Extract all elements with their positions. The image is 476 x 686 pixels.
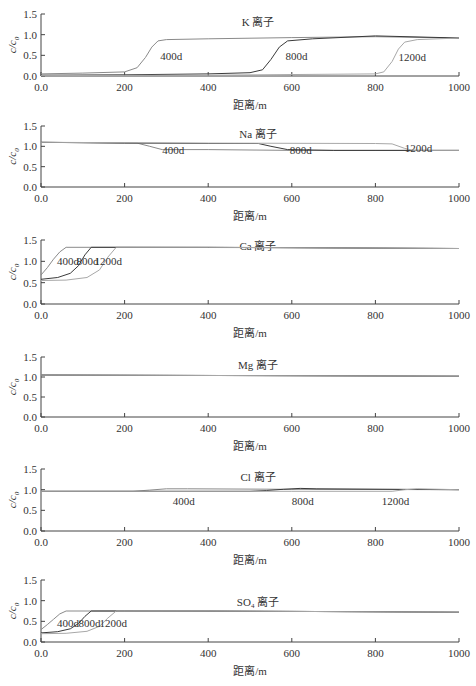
x-axis-label: 距离/m	[233, 439, 267, 452]
y-tick-label: 1.5	[23, 351, 37, 363]
x-tick-label: 1000	[448, 81, 471, 93]
x-tick-label: 0.0	[34, 647, 48, 659]
y-tick-label: 1.0	[23, 255, 37, 267]
y-tick-label: 1.0	[23, 484, 37, 496]
chart-panel-1: 0.00.51.01.50.02004006008001000c/c0距离/mK…	[6, 8, 471, 111]
y-tick-label: 1.0	[23, 140, 37, 152]
chart-title: Mg 离子	[238, 358, 278, 371]
chart-panel-3: 0.00.51.01.50.02004006008001000c/c0距离/mC…	[6, 234, 471, 339]
figure: 0.00.51.01.50.02004006008001000c/c0距离/mK…	[0, 0, 476, 686]
x-tick-label: 400	[200, 422, 217, 434]
x-tick-label: 200	[116, 309, 133, 321]
x-axis-label: 距离/m	[233, 664, 267, 677]
x-tick-label: 1000	[448, 536, 471, 548]
x-tick-label: 800	[367, 81, 384, 93]
x-tick-label: 200	[116, 192, 133, 204]
curve-label-800d: 800d	[286, 50, 309, 62]
y-tick-label: 1.5	[23, 234, 37, 246]
chart-title: Cl 离子	[240, 470, 275, 483]
x-tick-label: 200	[116, 647, 133, 659]
x-tick-label: 800	[367, 536, 384, 548]
series-800d	[41, 36, 459, 75]
chart-title: K 离子	[242, 15, 275, 28]
curve-label-1200d: 1200d	[382, 495, 410, 507]
x-tick-label: 400	[200, 536, 217, 548]
x-axis-label: 距离/m	[233, 553, 267, 566]
curve-label-400d: 400d	[160, 50, 183, 62]
y-axis-label: c/c0	[6, 602, 21, 619]
y-tick-label: 1.5	[23, 463, 37, 475]
x-axis-label: 距离/m	[233, 209, 267, 222]
x-tick-label: 600	[284, 422, 301, 434]
series-1200d	[41, 38, 459, 76]
x-tick-label: 0.0	[34, 192, 48, 204]
x-tick-label: 600	[284, 81, 301, 93]
curve-label-1200d: 1200d	[405, 142, 433, 154]
curve-label-1200d: 1200d	[100, 617, 128, 629]
y-tick-label: 1.0	[23, 595, 37, 607]
y-axis-label: c/c0	[6, 148, 21, 165]
y-tick-label: 1.5	[23, 574, 37, 586]
series-1200d	[41, 375, 459, 376]
x-tick-label: 1000	[448, 309, 471, 321]
curve-label-800d: 800d	[290, 144, 313, 156]
y-tick-label: 0.5	[23, 615, 37, 627]
x-tick-label: 200	[116, 536, 133, 548]
y-tick-label: 1.0	[23, 371, 37, 383]
series-400d	[41, 37, 459, 74]
y-tick-label: 0.5	[23, 161, 37, 173]
x-axis-label: 距离/m	[233, 98, 267, 111]
curve-label-1200d: 1200d	[398, 51, 426, 63]
y-axis-label: c/c0	[6, 491, 21, 508]
x-tick-label: 800	[367, 192, 384, 204]
x-tick-label: 1000	[448, 422, 471, 434]
x-tick-label: 600	[284, 309, 301, 321]
curve-label-400d: 400d	[173, 495, 196, 507]
x-tick-label: 1000	[448, 647, 471, 659]
x-tick-label: 400	[200, 192, 217, 204]
y-tick-label: 0.5	[23, 49, 37, 61]
curve-label-400d: 400d	[57, 617, 80, 629]
x-tick-label: 200	[116, 422, 133, 434]
y-tick-label: 0.5	[23, 277, 37, 289]
x-tick-label: 0.0	[34, 81, 48, 93]
charts-canvas: 0.00.51.01.50.02004006008001000c/c0距离/mK…	[0, 0, 476, 686]
x-tick-label: 800	[367, 309, 384, 321]
x-tick-label: 800	[367, 422, 384, 434]
curve-label-1200d: 1200d	[95, 255, 123, 267]
x-tick-label: 0.0	[34, 309, 48, 321]
curve-label-800d: 800d	[292, 495, 315, 507]
x-tick-label: 400	[200, 81, 217, 93]
y-axis-label: c/c0	[6, 263, 21, 280]
chart-panel-6: 0.00.51.01.50.02004006008001000c/c0距离/mS…	[6, 574, 471, 677]
chart-panel-4: 0.00.51.01.50.02004006008001000c/c0距离/mM…	[6, 351, 471, 452]
x-tick-label: 400	[200, 647, 217, 659]
x-tick-label: 400	[200, 309, 217, 321]
series-1200d	[41, 142, 459, 150]
x-tick-label: 0.0	[34, 422, 48, 434]
x-tick-label: 600	[284, 192, 301, 204]
chart-panel-2: 0.00.51.01.50.02004006008001000c/c0距离/mN…	[6, 120, 471, 222]
curve-label-800d: 800d	[79, 617, 102, 629]
x-tick-label: 1000	[448, 192, 471, 204]
y-tick-label: 1.5	[23, 8, 37, 20]
x-tick-label: 600	[284, 647, 301, 659]
chart-title: SO4 离子	[237, 595, 279, 610]
curve-label-400d: 400d	[162, 144, 185, 156]
x-tick-label: 600	[284, 536, 301, 548]
y-axis-label: c/c0	[6, 378, 21, 395]
chart-title: Ca 离子	[240, 239, 277, 252]
chart-title: Na 离子	[239, 127, 277, 140]
y-tick-label: 1.0	[23, 29, 37, 41]
x-tick-label: 200	[116, 81, 133, 93]
y-tick-label: 0.5	[23, 391, 37, 403]
x-tick-label: 800	[367, 647, 384, 659]
x-tick-label: 0.0	[34, 536, 48, 548]
x-axis-label: 距离/m	[233, 326, 267, 339]
y-tick-label: 0.5	[23, 504, 37, 516]
y-axis-label: c/c0	[6, 36, 21, 53]
y-tick-label: 1.5	[23, 120, 37, 132]
chart-panel-5: 0.00.51.01.50.02004006008001000c/c0距离/mC…	[6, 463, 471, 566]
